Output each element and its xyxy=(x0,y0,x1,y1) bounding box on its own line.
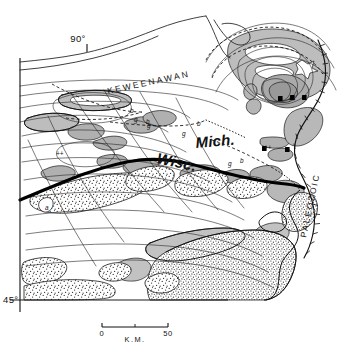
unit-letter: g xyxy=(182,130,186,138)
parallel-45-label: 45° xyxy=(3,294,19,305)
gray-pod-1 xyxy=(68,124,104,140)
scale-bar-left-label: 0 xyxy=(100,329,105,338)
meridian-90-label: 90° xyxy=(70,33,86,44)
stipple-sw-bottom xyxy=(24,280,115,300)
unit-letter-plus: ++ xyxy=(56,150,64,157)
unit-letter-plus: ++ xyxy=(264,144,272,151)
unit-letter: b xyxy=(240,157,244,164)
unit-letter: b xyxy=(130,107,134,114)
unit-letter: g xyxy=(134,116,138,124)
scale-bar-units-label: K.M. xyxy=(125,335,146,344)
geologic-map-figure: 90° 45° KEWEENAWAN PALEOZOIC Mich. Wisc.… xyxy=(0,0,342,348)
gray-unit-fold-ellipse-2 xyxy=(246,99,261,114)
unit-letter: g xyxy=(147,122,151,130)
unit-letter-plus: ++ xyxy=(288,96,296,103)
michigan-label: Mich. xyxy=(195,131,236,151)
map-canvas: 90° 45° KEWEENAWAN PALEOZOIC Mich. Wisc.… xyxy=(0,0,342,348)
unit-letter: a xyxy=(45,204,49,211)
unit-letter: b xyxy=(197,120,201,127)
unit-letter: g xyxy=(228,160,232,168)
scale-bar-right-label: 50 xyxy=(163,329,173,338)
